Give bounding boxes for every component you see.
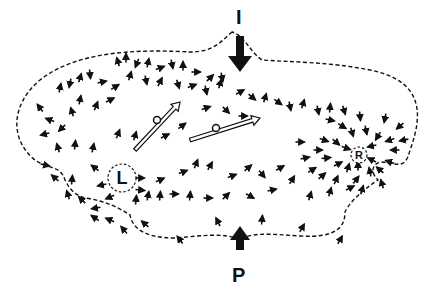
flow-arrow xyxy=(301,157,310,159)
flow-arrow xyxy=(156,66,164,69)
flow-arrow xyxy=(160,192,161,201)
flow-arrow xyxy=(178,123,185,128)
flow-arrow xyxy=(75,141,76,150)
flow-arrow xyxy=(276,166,284,170)
flow-arrow xyxy=(360,112,361,121)
flow-arrow xyxy=(329,188,332,197)
flow-arrow xyxy=(161,134,169,138)
field-arrows xyxy=(37,54,408,244)
hollow-flow-arrows xyxy=(131,99,261,154)
flow-arrow xyxy=(330,104,331,113)
bottom-inflow-arrow xyxy=(230,226,250,250)
flow-arrow xyxy=(59,84,61,93)
flow-arrow xyxy=(368,158,376,162)
flow-arrow xyxy=(333,139,340,145)
flow-arrow xyxy=(351,128,354,137)
flow-arrow xyxy=(268,189,277,191)
flow-arrow xyxy=(79,96,81,105)
flow-arrow xyxy=(262,216,263,225)
flow-arrow xyxy=(135,59,138,67)
inflow-arrows xyxy=(228,36,252,250)
flow-arrow xyxy=(320,139,329,142)
flow-arrow xyxy=(117,58,120,67)
flow-arrow xyxy=(219,80,222,89)
small-circle-marker xyxy=(154,117,161,124)
flow-arrow xyxy=(69,79,71,88)
flow-arrow xyxy=(386,139,395,142)
flow-arrow xyxy=(346,186,354,190)
flow-arrow xyxy=(338,236,342,244)
flow-arrow xyxy=(111,85,119,90)
left-vortex-L-label: L xyxy=(117,168,128,188)
flow-arrow xyxy=(202,107,211,110)
flow-arrow xyxy=(317,106,319,115)
flow-arrow xyxy=(369,168,371,177)
flow-arrow xyxy=(236,90,244,94)
flow-arrow xyxy=(59,125,65,131)
flow-arrow xyxy=(376,132,381,140)
flow-arrow xyxy=(190,192,191,201)
label-top-I: I xyxy=(236,6,242,28)
flow-arrow xyxy=(179,170,187,173)
flow-arrow xyxy=(334,162,342,166)
flow-arrow xyxy=(98,81,107,83)
flow-arrow xyxy=(342,147,351,150)
flow-arrow xyxy=(365,126,367,135)
flow-arrow xyxy=(347,164,350,173)
flow-arrow xyxy=(194,160,197,168)
flow-arrow xyxy=(309,192,312,201)
flow-arrow xyxy=(46,118,54,121)
right-vortex-R-label: R xyxy=(355,149,363,161)
flow-arrow xyxy=(384,114,386,123)
flow-arrow xyxy=(246,194,254,198)
flow-arrow xyxy=(136,196,137,205)
flow-arrow xyxy=(308,168,316,173)
flow-arrow xyxy=(98,184,107,186)
hollow-arrow xyxy=(189,113,262,145)
flow-arrow xyxy=(207,75,213,81)
flow-arrow xyxy=(274,99,281,104)
flow-arrow xyxy=(156,178,164,182)
flow-arrow xyxy=(142,221,149,227)
flow-arrow xyxy=(322,158,331,159)
flow-arrow xyxy=(300,224,304,232)
flow-arrow xyxy=(72,176,73,185)
flow-arrow xyxy=(67,191,70,200)
flow-arrow xyxy=(400,139,409,141)
flow-arrow xyxy=(147,59,149,68)
small-circle-marker xyxy=(213,125,220,132)
diagram-canvas: LR I P xyxy=(0,0,443,296)
flow-arrow xyxy=(216,218,220,226)
flow-arrow xyxy=(91,216,98,221)
cell-outline-dashed xyxy=(17,32,418,240)
hollow-arrow xyxy=(131,99,183,154)
flow-arrow xyxy=(92,144,94,153)
flow-arrow xyxy=(381,180,384,189)
vortex-centers: LR xyxy=(108,147,367,192)
flow-arrow xyxy=(249,94,256,100)
flow-arrow xyxy=(353,176,358,183)
flow-arrow xyxy=(41,133,50,135)
flow-arrow xyxy=(106,195,114,199)
flow-arrow xyxy=(302,100,305,109)
label-bottom-P: P xyxy=(232,264,245,286)
flow-arrow xyxy=(92,207,101,208)
flow-arrow xyxy=(368,145,377,147)
flow-arrow xyxy=(52,175,59,181)
flow-arrow xyxy=(326,119,335,121)
flow-arrow xyxy=(57,144,60,153)
flow-arrow xyxy=(377,167,384,173)
flow-arrow xyxy=(319,173,326,179)
flow-arrow xyxy=(264,94,267,103)
flow-arrow xyxy=(208,162,212,170)
flow-arrow xyxy=(145,76,147,85)
flow-arrow xyxy=(177,80,180,89)
flow-arrow xyxy=(116,130,119,138)
flow-field-diagram: LR I P xyxy=(0,0,443,296)
flow-arrow xyxy=(289,102,291,111)
flow-arrow xyxy=(41,164,50,166)
flow-arrow xyxy=(228,174,236,177)
flow-arrow xyxy=(91,165,98,170)
flow-arrow xyxy=(171,60,173,69)
flow-arrow xyxy=(121,227,127,234)
